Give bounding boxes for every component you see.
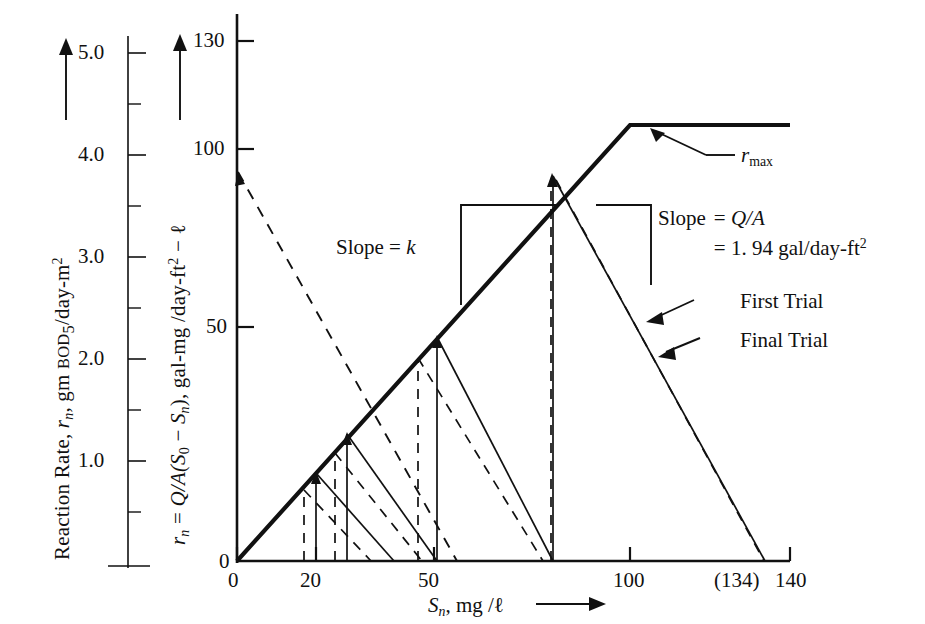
slope-qa-value-q: Q xyxy=(731,206,746,230)
x-axis-ticklabel-100: 100 xyxy=(613,568,645,593)
y-axis-group xyxy=(237,14,254,563)
slope-qa-label-text: Slope xyxy=(658,205,706,233)
left-axis-title: Reaction Rate, rn, gm BOD5/day-m2 xyxy=(50,257,79,560)
y-axis-title-tail: − ℓ xyxy=(166,224,190,257)
y-axis-title-q: Q xyxy=(166,491,190,506)
y-axis-title: rn = Q/A(S0 − Sn), gal-mg /day-ft2 − ℓ xyxy=(166,224,193,545)
final-trial-label: Final Trial xyxy=(740,327,828,355)
y-axis-title-close: ), gal-mg /day-ft xyxy=(166,265,190,407)
x-axis-arrow-head xyxy=(589,597,606,611)
y-axis-title-symbol: r xyxy=(166,537,190,545)
final-trial-arrowhead xyxy=(658,347,676,360)
y-axis-title-sn-sub: n xyxy=(177,406,192,413)
slope-qa-value2-sup: 2 xyxy=(860,236,867,251)
slope-qa-line1: = Q/A xyxy=(714,205,867,233)
slope-qa-spacer xyxy=(658,235,706,263)
y-axis-title-slash-a: /A( xyxy=(166,465,190,491)
first-trial-label: First Trial xyxy=(740,288,823,316)
r-max-label: rmax xyxy=(741,142,773,171)
axis-arrow-group xyxy=(59,34,606,611)
r-max-arrowhead xyxy=(650,128,665,142)
y-axis-arrow-head xyxy=(173,34,187,51)
slope-qa-eq1: = xyxy=(714,206,726,230)
left-axis-ticklabel-5: 5.0 xyxy=(78,40,104,65)
y-axis-ticklabel-50: 50 xyxy=(206,314,227,339)
final-trial-leader xyxy=(658,338,700,360)
left-axis-ticklabel-3: 3.0 xyxy=(78,244,104,269)
slope-qa-value2: 1. 94 gal/day-ft xyxy=(731,236,860,260)
r-max-leader xyxy=(650,128,735,155)
left-axis-ticklabel-2: 2.0 xyxy=(78,346,104,371)
stage-3-solid-operating xyxy=(437,337,553,561)
left-axis-title-units-b: /day-m xyxy=(50,264,74,325)
y-axis-ticklabel-130: 130 xyxy=(193,28,225,53)
figure-root: 5.0 4.0 3.0 2.0 1.0 Reaction Rate, rn, g… xyxy=(0,0,925,624)
x-axis-group xyxy=(237,547,790,561)
left-axis-ticklabel-1: 1.0 xyxy=(78,448,104,473)
slope-qa-line2: = 1. 94 gal/day-ft2 xyxy=(714,235,867,263)
stage-2-dashed-operating xyxy=(335,453,422,561)
y-axis-title-sn: S xyxy=(166,413,190,424)
y-axis-title-s0: S xyxy=(166,454,190,465)
x-axis-ticklabel-140: 140 xyxy=(775,568,807,593)
stage-1-dashed-operating xyxy=(304,490,371,561)
first-trial-arrowhead xyxy=(646,312,664,325)
left-axis-arrow-head xyxy=(59,38,73,55)
x-axis-title-units: , mg /ℓ xyxy=(445,593,503,617)
x-axis-title: Sn, mg /ℓ xyxy=(428,592,504,621)
y-axis-title-symbol-sub: n xyxy=(177,529,192,536)
left-axis-title-units-sc: BOD xyxy=(54,334,73,369)
first-trial-leader xyxy=(646,300,694,325)
rate-curve xyxy=(237,125,790,561)
r-max-symbol: r xyxy=(741,143,749,167)
left-axis-title-lead: Reaction Rate, xyxy=(50,428,74,560)
y-axis-title-minus: − xyxy=(166,424,190,447)
left-axis-group xyxy=(108,36,150,568)
stage-2-solid-operating xyxy=(347,434,437,561)
x-axis-title-symbol: S xyxy=(428,593,439,617)
slope-qa-label: Slope = Q/A = 1. 94 gal/day-ft2 xyxy=(658,205,867,262)
x-axis-ticklabel-50: 50 xyxy=(418,568,439,593)
r-max-sub: max xyxy=(749,154,773,169)
left-axis-title-units-sc-sub: 5 xyxy=(59,325,78,333)
y-axis-ticklabel-100: 100 xyxy=(193,136,225,161)
slope-qa-value-rest: /A xyxy=(746,206,765,230)
slope-k-label: Slope = k xyxy=(336,234,416,262)
slope-qa-bracket xyxy=(596,205,651,285)
x-axis-ticklabel-0: 0 xyxy=(228,568,239,593)
slope-k-text: Slope = xyxy=(336,235,406,259)
left-axis-title-units-sup: 2 xyxy=(50,257,65,264)
stage-1-solid-operating xyxy=(316,473,394,561)
y-axis-title-eq: = xyxy=(166,507,190,530)
x-axis-ticklabel-20: 20 xyxy=(300,568,321,593)
y-axis-title-sup: 2 xyxy=(166,258,181,265)
riser-arrowheads-group xyxy=(311,173,558,484)
x-axis-ticklabel-134: (134) xyxy=(714,568,760,593)
left-axis-ticklabel-4: 4.0 xyxy=(78,142,104,167)
slope-k-symbol: k xyxy=(406,235,415,259)
slope-qa-eq2: = xyxy=(714,236,726,260)
left-axis-title-symbol-sub: n xyxy=(61,413,76,420)
left-axis-title-symbol: r xyxy=(50,420,74,428)
y-axis-title-s0-sub: 0 xyxy=(177,447,192,454)
left-axis-title-units-a: , gm xyxy=(50,369,74,413)
